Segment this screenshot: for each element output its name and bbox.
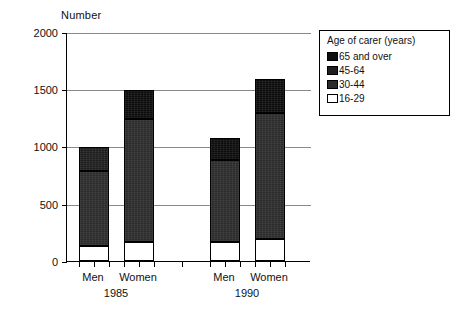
chart-figure: Number 2000 1500 1000 500 0 (0, 0, 456, 313)
gridline-2000 (67, 33, 311, 34)
x-tick-mid (182, 262, 183, 267)
legend-item-16-29[interactable]: 16-29 (327, 91, 449, 105)
y-tick-0 (62, 262, 67, 263)
bar-men-1990 (210, 138, 240, 261)
legend-swatch-icon (327, 94, 338, 103)
bar-segment-30-44 (210, 160, 240, 242)
x-tick-edge (154, 262, 155, 267)
legend: Age of carer (years) 65 and over 45-64 3… (319, 30, 450, 116)
x-tick-edge (240, 262, 241, 267)
bar-segment-16-29 (124, 242, 154, 262)
bar-women-1990 (255, 79, 285, 261)
legend-item-label: 16-29 (339, 93, 365, 104)
y-axis-title: Number (61, 9, 101, 21)
x-axis-label-men-1990: Men (213, 271, 234, 283)
x-tick-edge (79, 262, 80, 267)
x-tick-women-1990 (270, 262, 271, 267)
bar-women-1985 (124, 90, 154, 261)
x-tick-edge (285, 262, 286, 267)
x-tick-women-1985 (139, 262, 140, 267)
bar-segment-45-64 (79, 147, 109, 171)
y-tick-1500 (62, 90, 67, 91)
bar-segment-16-29 (255, 239, 285, 261)
x-axis-group-label-1985: 1985 (104, 287, 128, 299)
y-axis-label-500: 500 (0, 199, 58, 211)
bar-segment-30-44 (124, 119, 154, 242)
legend-item-label: 65 and over (339, 51, 392, 62)
x-tick-edge (210, 262, 211, 267)
y-axis-label-1000: 1000 (0, 141, 58, 153)
y-axis-label-1500: 1500 (0, 84, 58, 96)
legend-item-30-44[interactable]: 30-44 (327, 77, 449, 91)
bar-segment-30-44 (79, 171, 109, 247)
bar-segment-65-and-over (210, 138, 240, 160)
x-axis-label-women-1990: Women (250, 271, 288, 283)
legend-swatch-icon (327, 66, 338, 75)
bar-segment-30-44 (255, 113, 285, 238)
bar-segment-65-and-over (124, 90, 154, 119)
legend-item-label: 45-64 (339, 65, 365, 76)
x-axis-label-women-1985: Women (119, 271, 157, 283)
y-tick-500 (62, 205, 67, 206)
plot-area (66, 33, 310, 262)
legend-swatch-icon (327, 80, 338, 89)
x-tick-edge (109, 262, 110, 267)
y-axis-label-2000: 2000 (0, 27, 58, 39)
legend-item-45-64[interactable]: 45-64 (327, 63, 449, 77)
bar-segment-16-29 (79, 246, 109, 261)
x-axis-group-label-1990: 1990 (235, 287, 259, 299)
y-tick-2000 (62, 33, 67, 34)
bar-segment-16-29 (210, 242, 240, 261)
y-axis-label-0: 0 (0, 256, 58, 268)
x-tick-men-1990 (225, 262, 226, 267)
y-tick-1000 (62, 147, 67, 148)
legend-item-label: 30-44 (339, 79, 365, 90)
x-tick-edge (255, 262, 256, 267)
legend-title: Age of carer (years) (327, 35, 449, 46)
x-tick-edge (124, 262, 125, 267)
legend-item-65-and-over[interactable]: 65 and over (327, 49, 449, 63)
legend-swatch-icon (327, 52, 338, 61)
x-tick-men-1985 (94, 262, 95, 267)
bar-men-1985 (79, 147, 109, 262)
bar-segment-65-and-over (255, 79, 285, 113)
x-axis-label-men-1985: Men (82, 271, 103, 283)
